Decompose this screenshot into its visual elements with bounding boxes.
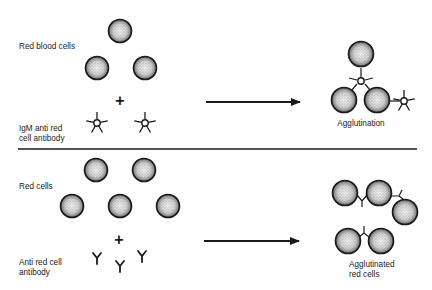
agglutination-cluster (332, 42, 415, 113)
agglutinated-label-line1: Agglutinated (349, 260, 395, 269)
bottom-antibody-label-line2: antibody (19, 268, 51, 277)
cell-stipple (110, 196, 130, 216)
igm-core (401, 98, 407, 104)
igm-link (365, 84, 370, 90)
cell-stipple (158, 196, 178, 216)
bottom-red-cells (61, 159, 180, 218)
cell-stipple (350, 43, 372, 65)
top-panel: Red blood cells IgM anti red cell antibo… (19, 20, 415, 144)
igm-arm (140, 126, 144, 133)
igm-arm (148, 121, 156, 123)
red-cell (369, 229, 394, 254)
y-antibody-icon (116, 261, 124, 272)
cell-stipple (337, 230, 359, 252)
top-antibody-label-line2: cell antibody (19, 134, 65, 143)
red-cell (85, 159, 108, 182)
red-cell (109, 20, 132, 43)
red-cell (134, 57, 157, 80)
red-cell (332, 88, 357, 113)
agglutination-label: Agglutination (337, 119, 385, 128)
red-cell (393, 200, 418, 225)
igm-arm (399, 104, 403, 111)
cell-stipple (62, 196, 82, 216)
red-cell (109, 195, 132, 218)
agglutinated-cluster (333, 181, 418, 254)
igm-antibodies (86, 112, 156, 132)
igm-antibody-icon (134, 112, 156, 132)
agglutination-diagram: Red blood cells IgM anti red cell antibo… (0, 0, 432, 290)
cell-stipple (334, 182, 356, 204)
bottom-panel: Red cells Anti red cell antibody + (19, 159, 418, 280)
igm-core (142, 120, 148, 126)
red-cell (157, 195, 180, 218)
cell-stipple (394, 201, 416, 223)
igm-antibody-icon (393, 90, 415, 110)
red-cell (365, 88, 390, 113)
cell-stipple (368, 182, 390, 204)
y-antibody-icon (138, 251, 146, 262)
red-cell (349, 42, 374, 67)
igm-arm (393, 99, 401, 101)
y-bridge (391, 190, 403, 199)
cell-stipple (110, 21, 130, 41)
y-bridge (359, 226, 369, 237)
cell-stipple (87, 58, 107, 78)
igm-arm (92, 126, 96, 133)
bottom-antibody-label-line1: Anti red cell (19, 258, 62, 267)
cell-stipple (86, 160, 106, 180)
igm-arm (86, 121, 94, 123)
igm-arm (349, 78, 357, 80)
red-cell (86, 57, 109, 80)
igm-antibody-icon (86, 112, 108, 132)
igm-arm (365, 78, 373, 80)
y-bridge (357, 195, 367, 207)
cell-stipple (366, 89, 388, 111)
bottom-plus-sign: + (114, 231, 123, 248)
igm-arm (100, 121, 108, 123)
top-red-cells (86, 20, 157, 80)
igm-arm (406, 104, 410, 111)
red-cell (61, 195, 84, 218)
igm-arm (99, 126, 103, 133)
igm-core (94, 120, 100, 126)
y-shape (116, 261, 124, 272)
igm-core (358, 78, 364, 84)
cell-stipple (370, 230, 392, 252)
igm-arm (407, 99, 415, 101)
cell-stipple (135, 58, 155, 78)
red-cell (367, 181, 392, 206)
top-antibody-label-line1: IgM anti red (19, 124, 63, 133)
igm-arm (134, 121, 142, 123)
cell-stipple (333, 89, 355, 111)
bottom-cells-label: Red cells (19, 182, 53, 191)
top-cells-label: Red blood cells (19, 42, 75, 51)
red-cell (336, 229, 361, 254)
red-cell (133, 159, 156, 182)
agglutinated-label-line2: red cells (349, 270, 380, 279)
cell-stipple (134, 160, 154, 180)
igm-arm (147, 126, 151, 133)
igg-antibodies (93, 251, 146, 272)
top-plus-sign: + (115, 92, 124, 109)
y-shape (138, 251, 146, 262)
y-shape (93, 253, 101, 264)
y-antibody-icon (93, 253, 101, 264)
red-cell (333, 181, 358, 206)
